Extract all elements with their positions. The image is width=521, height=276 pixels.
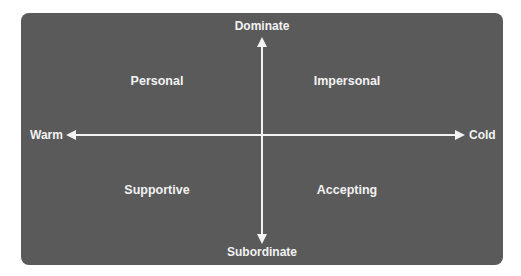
arrow-right-icon (455, 130, 465, 140)
arrow-down-icon (257, 234, 267, 244)
arrow-left-icon (66, 130, 76, 140)
vertical-axis-arrow (257, 37, 267, 244)
arrow-up-icon (257, 37, 267, 47)
axis-label-warm: Warm (30, 128, 63, 142)
axis-label-cold: Cold (469, 128, 496, 142)
axes (0, 0, 521, 276)
quadrant-label-accepting: Accepting (317, 183, 377, 197)
quadrant-label-personal: Personal (131, 74, 184, 88)
horizontal-axis-arrow (66, 130, 465, 140)
axis-label-dominate: Dominate (235, 19, 290, 33)
axis-label-subordinate: Subordinate (227, 245, 297, 259)
quadrant-label-supportive: Supportive (124, 183, 189, 197)
quadrant-label-impersonal: Impersonal (314, 74, 381, 88)
